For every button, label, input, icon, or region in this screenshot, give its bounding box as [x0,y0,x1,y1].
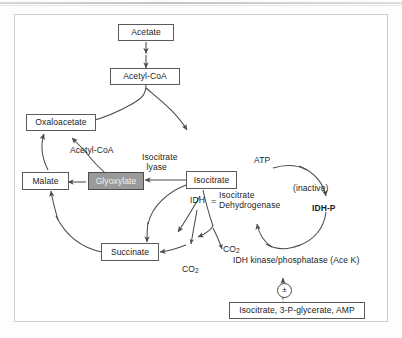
node-acetate[interactable]: Acetate [118,24,174,41]
label-inactive-text: (inactive) [293,183,328,193]
label-co2-lower-text: CO2 [182,264,199,274]
node-acetyl-coa-label: Acetyl-CoA [123,72,167,81]
label-idh-full-line2: Dehydrogenase [219,201,280,211]
node-effectors[interactable]: Isocitrate, 3-P-glycerate, AMP [229,302,365,319]
node-isocitrate-label: Isocitrate [194,176,230,185]
scan-artifact-line [0,2,402,4]
label-idh-kinase-phosphatase-text: IDH kinase/phosphatase (Ace K) [233,255,359,265]
label-idh-p-text: IDH-P [312,203,336,213]
node-malate-label: Malate [32,177,58,186]
label-idh-abbrev-text: IDH [190,195,205,205]
node-succinate-label: Succinate [111,248,149,257]
node-oxaloacetate-label: Oxaloacetate [35,118,86,127]
label-atp: ATP [254,156,270,166]
figure-frame [14,14,388,322]
node-effectors-label: Isocitrate, 3-P-glycerate, AMP [239,306,354,315]
label-co2-upper-text: CO2 [223,244,240,254]
label-acetyl-coa-entry-text: Acetyl-CoA [70,145,114,155]
label-co2-lower: CO2 [182,265,199,275]
node-glyoxylate-label: Glyoxylate [96,177,137,186]
label-idh-kinase-phosphatase: IDH kinase/phosphatase (Ace K) [233,256,359,266]
label-acetyl-coa-entry: Acetyl-CoA [70,146,114,156]
label-atp-text: ATP [254,155,270,165]
modulator-plusminus-icon: ± [277,283,292,298]
label-isocitrate-lyase: Isocitrate lyase [142,153,178,172]
modulator-plusminus-text: ± [282,285,286,294]
figure-page: Acetate Acetyl-CoA Oxaloacetate Malate G… [0,0,402,338]
node-isocitrate[interactable]: Isocitrate [186,171,237,189]
node-glyoxylate[interactable]: Glyoxylate [88,172,144,190]
label-idh-abbrev: IDH [190,196,205,206]
node-malate[interactable]: Malate [22,172,69,190]
label-idh-full: Isocitrate Dehydrogenase [219,191,280,210]
node-succinate[interactable]: Succinate [101,243,159,261]
label-co2-upper: CO2 [223,245,240,255]
label-idh-equals-text: = [211,196,216,206]
node-acetate-label: Acetate [131,28,161,37]
scan-artifact-line-secondary [0,5,402,6]
node-acetyl-coa[interactable]: Acetyl-CoA [110,68,180,85]
label-inactive: (inactive) [293,184,328,194]
label-idh-equals: = [211,196,216,206]
node-oxaloacetate[interactable]: Oxaloacetate [26,114,96,131]
label-idh-p: IDH-P [312,204,336,214]
label-isocitrate-lyase-line2: lyase [136,163,178,173]
